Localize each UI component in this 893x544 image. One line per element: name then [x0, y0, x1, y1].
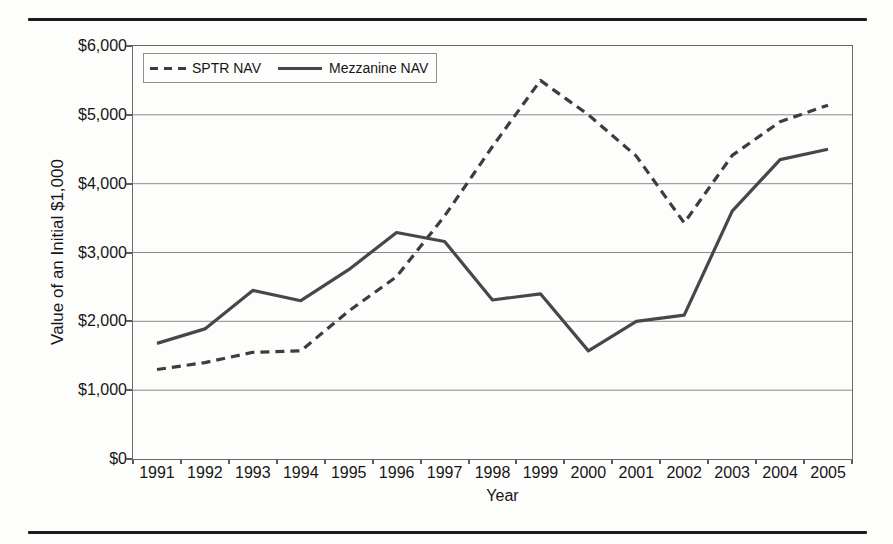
- y-axis-tick-label: $2,000: [40, 312, 127, 330]
- y-axis-tick-label: $5,000: [40, 106, 127, 124]
- y-axis-tick-label: $3,000: [40, 244, 127, 262]
- x-axis-title: Year: [132, 487, 873, 505]
- x-axis-tick-mark: [803, 460, 805, 464]
- x-axis-tick-mark: [372, 460, 374, 464]
- y-axis-tick-label: $6,000: [40, 37, 127, 55]
- x-axis-tick-mark: [468, 460, 470, 464]
- x-axis-tick-mark: [707, 460, 709, 464]
- legend-label-sptr: SPTR NAV: [192, 60, 261, 76]
- x-axis-tick-mark: [659, 460, 661, 464]
- sptr-dashed-line-sample: [150, 67, 188, 70]
- x-axis-tick-mark: [180, 460, 182, 464]
- x-axis-tick-mark: [755, 460, 757, 464]
- x-axis-tick-mark: [420, 460, 422, 464]
- scanned-page: Value of an Initial $1,000 $6,000$5,000$…: [0, 0, 893, 544]
- x-axis-tick-mark: [611, 460, 613, 464]
- mezzanine-solid-line-sample: [278, 67, 322, 70]
- y-axis-tick-label: $4,000: [40, 175, 127, 193]
- x-axis-tick-mark: [132, 460, 134, 464]
- x-axis-tick-mark: [563, 460, 565, 464]
- x-axis-tick-mark: [515, 460, 517, 464]
- plot-area: [132, 45, 853, 460]
- nav-line-chart: [133, 46, 852, 459]
- legend-label-mezzanine: Mezzanine NAV: [329, 60, 428, 76]
- x-axis-tick-label: 2005: [798, 464, 858, 482]
- y-axis-tick-label: $1,000: [40, 381, 127, 399]
- top-horizontal-rule: [28, 18, 867, 21]
- bottom-horizontal-rule: [28, 531, 867, 534]
- x-axis-tick-mark: [276, 460, 278, 464]
- x-axis-tick-mark: [228, 460, 230, 464]
- y-axis-tick-label: $0: [40, 450, 127, 468]
- chart-legend: SPTR NAV Mezzanine NAV: [143, 53, 437, 83]
- mezzanine-nav-line: [157, 149, 828, 351]
- x-axis-tick-mark: [851, 460, 853, 464]
- x-axis-tick-mark: [324, 460, 326, 464]
